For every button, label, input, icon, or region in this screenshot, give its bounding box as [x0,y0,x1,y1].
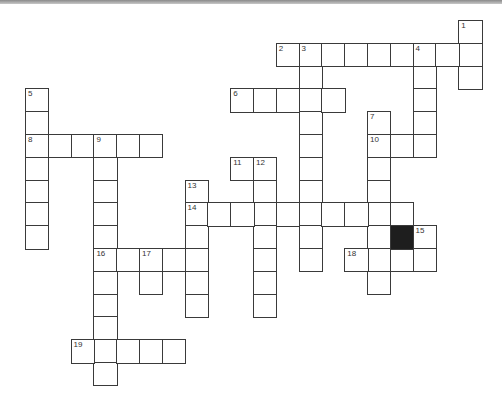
clue-number: 3 [302,45,306,53]
grid-cell[interactable] [185,271,209,295]
grid-cell[interactable] [413,111,437,135]
grid-cell[interactable]: 3 [299,43,323,67]
grid-cell[interactable] [390,202,414,226]
crossword-grid: 12345867109161112131415171819 [0,0,502,407]
grid-cell[interactable]: 11 [230,157,254,181]
grid-cell[interactable]: 5 [25,88,49,112]
grid-cell[interactable] [413,248,437,272]
grid-cell[interactable] [93,294,117,318]
grid-cell[interactable] [93,271,117,295]
grid-cell[interactable] [253,248,277,272]
clue-number: 19 [74,341,83,349]
grid-cell[interactable]: 7 [367,111,391,135]
grid-cell[interactable] [25,225,49,249]
grid-cell[interactable]: 13 [185,180,209,204]
grid-cell[interactable] [253,271,277,295]
grid-cell[interactable] [25,111,49,135]
grid-cell[interactable] [93,339,117,363]
grid-cell[interactable]: 2 [276,43,300,67]
grid-cell[interactable] [367,248,391,272]
grid-cell[interactable]: 19 [71,339,95,363]
grid-cell[interactable] [71,134,95,158]
grid-cell[interactable]: 14 [185,202,209,226]
grid-cell[interactable] [299,111,323,135]
grid-cell[interactable] [321,88,345,112]
grid-cell[interactable] [299,180,323,204]
grid-cell[interactable] [139,339,163,363]
grid-cell[interactable] [299,202,323,226]
grid-cell[interactable] [458,43,482,67]
grid-cell[interactable] [367,225,391,249]
grid-cell[interactable] [367,202,391,226]
grid-cell[interactable] [139,134,163,158]
grid-cell[interactable] [367,157,391,181]
grid-cell[interactable]: 15 [413,225,437,249]
grid-cell[interactable] [93,316,117,340]
grid-cell[interactable] [321,202,345,226]
grid-cell[interactable] [344,202,368,226]
grid-cell[interactable]: 12 [253,157,277,181]
clue-number: 15 [416,227,425,235]
grid-cell[interactable] [390,134,414,158]
grid-cell[interactable] [299,225,323,249]
grid-cell[interactable] [185,248,209,272]
grid-cell[interactable]: 6 [230,88,254,112]
grid-cell[interactable] [413,88,437,112]
grid-cell[interactable] [93,362,117,386]
grid-cell[interactable] [413,134,437,158]
clue-number: 9 [96,136,100,144]
grid-cell[interactable] [299,157,323,181]
grid-cell[interactable] [276,88,300,112]
grid-cell[interactable] [299,66,323,90]
clue-number: 16 [96,250,105,258]
grid-cell[interactable] [253,294,277,318]
clue-number: 12 [256,159,265,167]
grid-cell[interactable] [299,134,323,158]
grid-cell[interactable]: 16 [93,248,117,272]
grid-cell[interactable] [413,66,437,90]
grid-cell[interactable] [321,43,345,67]
grid-cell[interactable]: 8 [25,134,49,158]
grid-cell[interactable] [162,248,186,272]
grid-cell[interactable] [390,43,414,67]
grid-cell[interactable] [276,202,300,226]
grid-cell[interactable] [93,202,117,226]
grid-cell[interactable] [185,225,209,249]
grid-cell[interactable] [253,225,277,249]
grid-cell[interactable] [116,248,140,272]
grid-cell[interactable] [253,202,277,226]
grid-cell[interactable] [344,43,368,67]
grid-cell[interactable] [230,202,254,226]
grid-cell[interactable] [185,294,209,318]
grid-cell[interactable] [435,43,459,67]
grid-cell[interactable] [162,339,186,363]
grid-cell[interactable] [116,339,140,363]
grid-cell[interactable] [139,271,163,295]
grid-cell[interactable] [25,180,49,204]
grid-cell[interactable] [116,134,140,158]
grid-cell[interactable] [93,180,117,204]
grid-cell[interactable] [458,66,482,90]
clue-number: 8 [28,136,32,144]
grid-cell[interactable]: 4 [413,43,437,67]
grid-cell[interactable] [253,180,277,204]
grid-cell[interactable] [48,134,72,158]
grid-cell[interactable] [367,43,391,67]
grid-cell[interactable] [25,202,49,226]
grid-cell[interactable]: 1 [458,20,482,44]
grid-cell[interactable] [93,225,117,249]
grid-cell[interactable] [253,88,277,112]
grid-cell[interactable] [93,157,117,181]
grid-cell[interactable] [390,248,414,272]
clue-number: 1 [461,22,465,30]
grid-cell[interactable] [299,248,323,272]
grid-cell[interactable] [299,88,323,112]
grid-cell[interactable]: 18 [344,248,368,272]
grid-cell[interactable]: 10 [367,134,391,158]
grid-cell[interactable]: 17 [139,248,163,272]
grid-cell[interactable] [207,202,231,226]
grid-cell[interactable] [367,271,391,295]
grid-cell[interactable]: 9 [93,134,117,158]
grid-cell[interactable] [367,180,391,204]
grid-cell[interactable] [25,157,49,181]
